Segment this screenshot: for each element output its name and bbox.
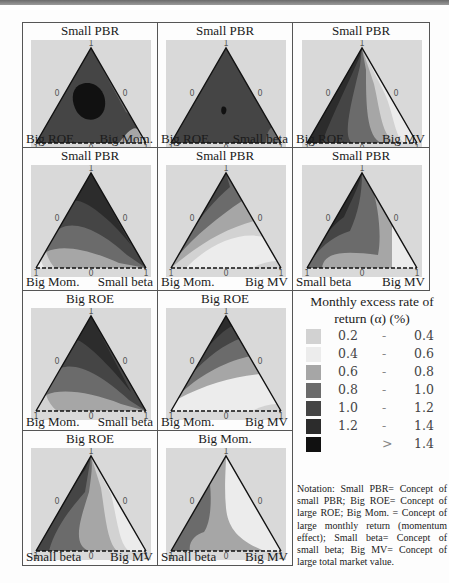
- legend-range-high: 1.2: [414, 400, 434, 415]
- right-edge-tick-label: 0: [257, 497, 262, 506]
- panel-bottom-left-label: Big Mom.: [26, 415, 79, 429]
- left-edge-tick-label: 0: [325, 214, 330, 223]
- apex-tick-label: 1: [223, 448, 228, 456]
- panel-bottom-right-label: Big MV: [382, 275, 425, 289]
- panel-bottom-right-label: Big Mom.: [100, 132, 153, 146]
- ternary-panel: Small PBR100101Big Mom.Small beta: [22, 147, 158, 291]
- apex-tick-label: 1: [223, 40, 228, 48]
- legend-item: 1.2-1.4: [292, 417, 449, 435]
- legend-range-low: 1.0: [338, 400, 358, 415]
- right-edge-tick-label: 0: [122, 497, 127, 506]
- legend-range-high: 1.0: [414, 382, 434, 397]
- legend-swatch: [306, 437, 321, 452]
- legend-range-high: 0.4: [414, 328, 434, 343]
- panel-bottom-right-label: Big MV: [382, 132, 425, 146]
- panel-title: Big ROE: [23, 432, 157, 446]
- panel-bottom-left-label: Small beta: [161, 550, 216, 564]
- panel-bottom-right-label: Small beta: [233, 132, 288, 146]
- legend-range-low: 0.4: [338, 346, 358, 361]
- ternary-contour-plot: 100101: [31, 308, 151, 420]
- left-edge-tick-label: 0: [54, 357, 59, 366]
- panel-bottom-left-label: Big ROE: [161, 132, 209, 146]
- legend-range-high: 0.8: [414, 364, 434, 379]
- legend-swatch: [306, 347, 321, 362]
- legend-swatch: [306, 401, 321, 416]
- ternary-contour-plot: 100101: [166, 308, 286, 420]
- base-mid-tick-label: 0: [223, 552, 228, 560]
- panel-bottom-left-label: Big Mom.: [161, 415, 214, 429]
- apex-tick-label: 1: [359, 40, 364, 48]
- panel-title: Small PBR: [158, 149, 292, 163]
- panel-bottom-left-label: Big Mom.: [161, 275, 214, 289]
- panel-title: Big ROE: [23, 292, 157, 306]
- apex-tick-label: 1: [359, 165, 364, 173]
- right-edge-tick-label: 0: [257, 357, 262, 366]
- ternary-panel: Small PBR100101Big ROEBig MV: [292, 22, 430, 148]
- panel-bottom-left-label: Small beta: [26, 550, 81, 564]
- panel-title: Big Mom.: [158, 432, 292, 446]
- legend-title-line1: Monthly excess rate of: [292, 293, 449, 310]
- apex-tick-label: 1: [88, 308, 93, 316]
- panel-bottom-left-label: Small beta: [296, 275, 351, 289]
- left-edge-tick-label: 0: [54, 89, 59, 98]
- legend-swatch: [306, 329, 321, 344]
- top-border-strip: [0, 0, 449, 5]
- legend-item: 0.8-1.0: [292, 381, 449, 399]
- legend-range-separator: -: [382, 382, 386, 397]
- panel-title: Small PBR: [293, 24, 429, 38]
- legend-range-high: 1.4: [414, 418, 434, 433]
- left-edge-tick-label: 0: [54, 497, 59, 506]
- panel-bottom-right-label: Big MV: [245, 275, 288, 289]
- right-edge-tick-label: 0: [122, 89, 127, 98]
- panel-title: Small PBR: [293, 149, 429, 163]
- legend-range-separator: >: [382, 436, 392, 451]
- apex-tick-label: 1: [223, 165, 228, 173]
- panel-bottom-right-label: Big MV: [110, 550, 153, 564]
- ternary-panel: Small PBR100101Big ROEBig Mom.: [22, 22, 158, 148]
- panel-bottom-right-label: Small beta: [98, 415, 153, 429]
- notation-text: Notation: Small PBR= Concept of small PB…: [297, 483, 447, 568]
- right-edge-tick-label: 0: [122, 357, 127, 366]
- ternary-panel: Small PBR100101Big Mom.Big MV: [157, 147, 293, 291]
- ternary-contour-plot: 100101: [31, 165, 151, 277]
- right-edge-tick-label: 0: [393, 214, 398, 223]
- legend-item: 0.6-0.8: [292, 363, 449, 381]
- legend-range-high: 1.4: [414, 436, 434, 451]
- legend-item: >1.4: [292, 435, 449, 453]
- legend-swatch: [306, 419, 321, 434]
- legend-range-separator: -: [382, 400, 386, 415]
- legend-item: 1.0-1.2: [292, 399, 449, 417]
- left-edge-tick-label: 0: [54, 214, 59, 223]
- legend-swatch: [306, 383, 321, 398]
- apex-tick-label: 1: [88, 448, 93, 456]
- panel-bottom-right-label: Big MV: [245, 415, 288, 429]
- apex-tick-label: 1: [223, 308, 228, 316]
- panel-bottom-left-label: Big ROE: [296, 132, 344, 146]
- panel-bottom-left-label: Big ROE: [26, 132, 74, 146]
- ternary-panel: Small PBR100101Small betaBig MV: [292, 147, 430, 291]
- legend-item: 0.2-0.4: [292, 327, 449, 345]
- right-edge-tick-label: 0: [257, 89, 262, 98]
- ternary-panel: Small PBR100101Big ROESmall beta: [157, 22, 293, 148]
- legend-swatch: [306, 365, 321, 380]
- legend-range-separator: -: [382, 328, 386, 343]
- legend-title-line2: return (α) (%): [292, 310, 449, 327]
- ternary-panel: Big ROE100101Big Mom.Big MV: [157, 290, 293, 431]
- right-edge-tick-label: 0: [122, 214, 127, 223]
- legend-title: Monthly excess rate of return (α) (%): [292, 293, 449, 327]
- legend-range-low: 0.6: [338, 364, 358, 379]
- base-mid-tick-label: 0: [223, 269, 228, 277]
- legend-range-separator: -: [382, 346, 386, 361]
- base-mid-tick-label: 0: [88, 412, 93, 420]
- left-edge-tick-label: 0: [189, 214, 194, 223]
- panel-title: Small PBR: [23, 24, 157, 38]
- ternary-panel: Big ROE100101Small betaBig MV: [22, 430, 158, 566]
- ternary-contour-plot: 100101: [31, 448, 151, 560]
- legend-range-low: 0.2: [338, 328, 358, 343]
- ternary-contour-plot: 100101: [166, 165, 286, 277]
- legend-range-separator: -: [382, 364, 386, 379]
- legend: Monthly excess rate of return (α) (%) 0.…: [292, 290, 449, 565]
- apex-tick-label: 1: [88, 40, 93, 48]
- apex-tick-label: 1: [88, 165, 93, 173]
- ternary-panel: Big Mom.100101Small betaBig MV: [157, 430, 293, 566]
